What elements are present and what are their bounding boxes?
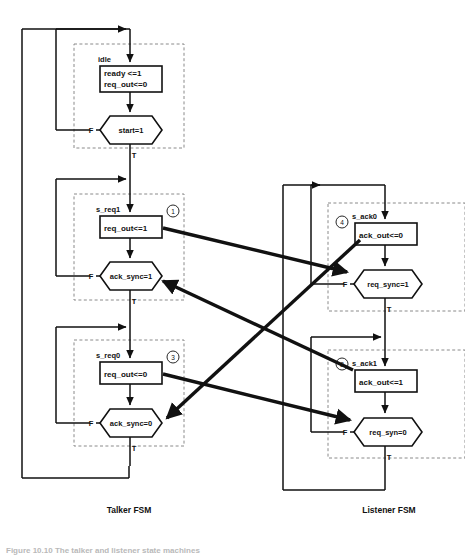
state-label-s_req0: s_req0 <box>96 351 120 360</box>
action-line-s_ack0-0: ack_out<=0 <box>359 231 404 240</box>
caption-listener: Listener FSM <box>362 505 415 515</box>
state-label-s_ack1: s_ack1 <box>352 359 377 368</box>
fsm-diagram: idle ready <=1 req_out<=0 start=1 F T s_… <box>0 0 465 556</box>
state-label-s_req1: s_req1 <box>96 205 120 214</box>
caption-talker: Talker FSM <box>107 505 152 515</box>
state-label-idle: idle <box>98 55 111 64</box>
action-line-s_req0-0: req_out<=0 <box>104 370 148 379</box>
branch-true-idle: T <box>132 151 137 160</box>
branch-true-s_req1: T <box>132 297 137 306</box>
branch-false-s_ack1: F <box>343 428 348 437</box>
action-line-s_req1-0: req_out<=1 <box>104 224 148 233</box>
marker-number-4: 4 <box>340 219 344 226</box>
condition-s_ack0: req_sync=1 <box>367 280 409 289</box>
state-label-s_ack0: s_ack0 <box>352 212 377 221</box>
figure-caption-bottom: Figure 10.10 The talker and listener sta… <box>6 546 200 555</box>
condition-s_req0: ack_sync=0 <box>110 419 152 428</box>
action-line-idle-0: ready <=1 <box>104 69 142 78</box>
branch-false-s_req1: F <box>89 272 94 281</box>
action-line-idle-1: req_out<=0 <box>104 80 148 89</box>
figure-canvas: idle ready <=1 req_out<=0 start=1 F T s_… <box>0 0 465 556</box>
branch-true-s_req0: T <box>132 444 137 453</box>
branch-false-s_req0: F <box>89 419 94 428</box>
branch-true-s_ack1: T <box>387 453 392 462</box>
action-line-s_ack1-0: ack_out<=1 <box>359 378 404 387</box>
condition-idle: start=1 <box>119 126 144 135</box>
branch-true-s_ack0: T <box>387 305 392 314</box>
condition-s_req1: ack_sync=1 <box>110 272 152 281</box>
marker-number-1: 1 <box>171 208 175 215</box>
branch-false-idle: F <box>89 126 94 135</box>
branch-false-s_ack0: F <box>343 280 348 289</box>
condition-s_ack1: req_syn=0 <box>369 428 406 437</box>
marker-number-3: 3 <box>171 354 175 361</box>
